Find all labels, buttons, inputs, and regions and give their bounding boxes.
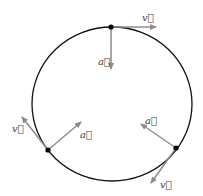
velocity-label-lower-right: v⃗ — [160, 179, 172, 190]
point-top: v⃗ a⃗ — [98, 12, 156, 69]
acceleration-vector-lower-left — [48, 122, 81, 150]
velocity-vector-lower-right — [151, 148, 176, 183]
acceleration-label-top: a⃗ — [98, 56, 110, 67]
point-lower-left: v⃗ a⃗ — [12, 117, 92, 153]
point-dot-lower-left — [45, 147, 50, 152]
circular-motion-diagram: v⃗ a⃗ v⃗ a⃗ v⃗ a⃗ — [0, 0, 203, 196]
acceleration-label-lower-left: a⃗ — [80, 129, 92, 140]
velocity-vector-lower-left — [22, 117, 48, 150]
velocity-label-lower-left: v⃗ — [12, 123, 24, 134]
point-lower-right: v⃗ a⃗ — [141, 115, 179, 190]
velocity-label-top: v⃗ — [142, 12, 154, 23]
point-dot-top — [108, 24, 113, 29]
diagram-canvas: v⃗ a⃗ v⃗ a⃗ v⃗ a⃗ — [0, 0, 203, 196]
acceleration-label-lower-right: a⃗ — [145, 115, 157, 126]
circular-path — [32, 27, 192, 181]
acceleration-vector-lower-right — [141, 124, 176, 148]
point-dot-lower-right — [173, 145, 178, 150]
